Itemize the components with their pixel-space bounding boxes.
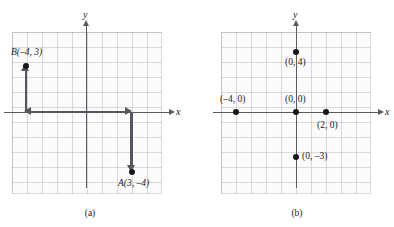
panel-b-point-y-neg-three (293, 154, 299, 160)
panel-b-x-axis-arrowhead (378, 109, 384, 115)
panel-a-path-left-segment (30, 111, 86, 113)
panel-b-point-y-four (293, 49, 299, 55)
panel-a-path-down-segment (130, 112, 132, 166)
panel-b: x y (0, 4) (0, 0) (–4, 0) (2, 0) (0, –3)… (197, 0, 394, 227)
panel-a: x y B(–4, 3) A(3, –4) (a) (0, 0, 197, 227)
panel-a-y-axis (86, 26, 87, 188)
panel-b-label-x-two: (2, 0) (317, 121, 338, 131)
panel-a-path-right-segment (86, 111, 126, 113)
panel-b-label-y-four: (0, 4) (285, 58, 306, 68)
panel-a-y-axis-arrowhead (83, 20, 89, 26)
panel-a-point-b (23, 63, 29, 69)
panel-b-label-x-neg-four: (–4, 0) (220, 95, 245, 105)
panel-b-x-axis-label: x (385, 107, 389, 117)
panel-a-point-b-label: B(–4, 3) (11, 48, 42, 58)
panel-a-x-axis-arrowhead (169, 109, 175, 115)
panel-a-x-axis-label: x (176, 107, 180, 117)
panel-a-path-up-segment (25, 71, 27, 112)
panel-b-label-y-neg-three: (0, –3) (302, 152, 327, 162)
panel-a-point-a-label: A(3, –4) (118, 179, 149, 189)
panel-b-y-axis-arrowhead (293, 20, 299, 26)
panel-a-caption: (a) (0, 209, 180, 219)
panel-b-y-axis-label: y (293, 10, 297, 20)
panel-a-y-axis-label: y (83, 10, 87, 20)
panel-b-point-origin (293, 109, 299, 115)
panel-b-label-origin: (0, 0) (285, 95, 306, 105)
panel-b-point-x-neg-four (233, 109, 239, 115)
coordinate-plane-figure: x y B(–4, 3) A(3, –4) (a) x (0, 0, 394, 227)
panel-b-point-x-two (323, 109, 329, 115)
panel-b-caption: (b) (222, 209, 372, 219)
panel-a-point-a (129, 169, 135, 175)
